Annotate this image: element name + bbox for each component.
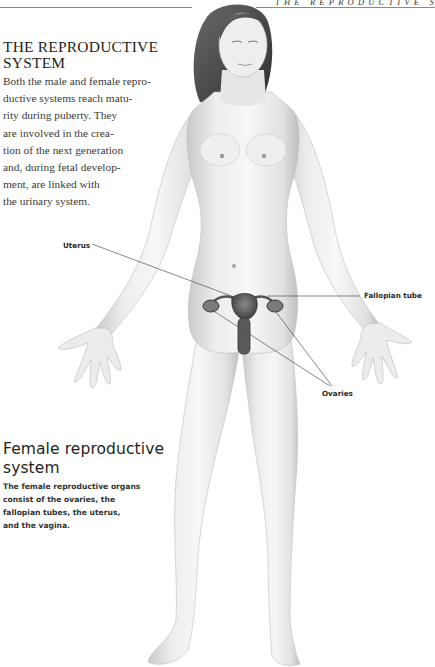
label-ovaries: Ovaries	[322, 389, 353, 398]
hair	[194, 5, 273, 103]
navel	[232, 264, 236, 268]
header-rule-right	[256, 7, 435, 8]
right-hand	[58, 328, 121, 388]
left-ovary	[267, 300, 283, 312]
header-rule-left	[0, 7, 192, 8]
uterus-shape	[232, 294, 258, 321]
female-system-block: Female reproductive system The female re…	[3, 440, 178, 532]
section-title: Female reproductive system	[3, 440, 178, 478]
running-head: THE REPRODUCTIVE SYSTEM	[275, 0, 435, 7]
left-breast	[246, 134, 286, 166]
label-uterus: Uterus	[63, 241, 90, 250]
right-ovary	[203, 300, 219, 312]
leader-lines	[92, 244, 360, 386]
intro-title: THE REPRODUCTIVE SYSTEM	[3, 39, 178, 71]
left-leg	[242, 330, 300, 665]
ovaries-leader-right	[212, 310, 330, 386]
torso	[187, 92, 299, 353]
neck	[220, 70, 266, 106]
reproductive-organs	[203, 294, 283, 355]
mouth	[238, 64, 252, 66]
head	[219, 13, 267, 77]
ovaries-leader-left	[276, 312, 332, 386]
right-breast	[200, 134, 240, 166]
uterus-leader	[92, 244, 242, 300]
intro-block: THE REPRODUCTIVE SYSTEM Both the male an…	[3, 39, 178, 211]
left-hand	[352, 323, 412, 384]
left-arm	[282, 108, 380, 334]
section-body: The female reproductive organs consist o…	[3, 480, 178, 532]
label-fallopian-tube: Fallopian tube	[364, 291, 422, 300]
vagina-shape	[238, 318, 250, 354]
intro-body: Both the male and female repro- ductive …	[3, 73, 178, 211]
eyes	[232, 41, 258, 42]
hair-front	[220, 13, 268, 40]
